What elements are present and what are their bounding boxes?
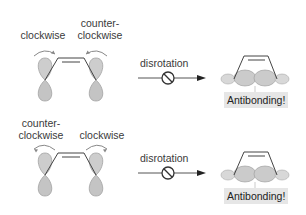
product-orbitals-icon [221, 152, 289, 188]
panel-clockwise-counterclockwise: clockwise counter- clockwise [0, 0, 306, 107]
forbidden-icon [162, 72, 174, 84]
process-label: disrotation [140, 57, 188, 69]
counterclockwise-arrow-icon [34, 145, 55, 150]
product-orbitals-icon [221, 56, 289, 92]
panel-counterclockwise-clockwise: counter- clockwise clockwise [0, 107, 306, 214]
double-bond-icon [45, 58, 96, 80]
orbital-diagram [0, 0, 306, 107]
clockwise-arrow-icon [86, 145, 107, 150]
double-bond-icon [45, 153, 96, 175]
process-label: disrotation [140, 152, 188, 164]
forbidden-icon [162, 167, 174, 179]
result-badge: Antibonding! [224, 92, 288, 108]
result-badge: Antibonding! [224, 188, 288, 204]
